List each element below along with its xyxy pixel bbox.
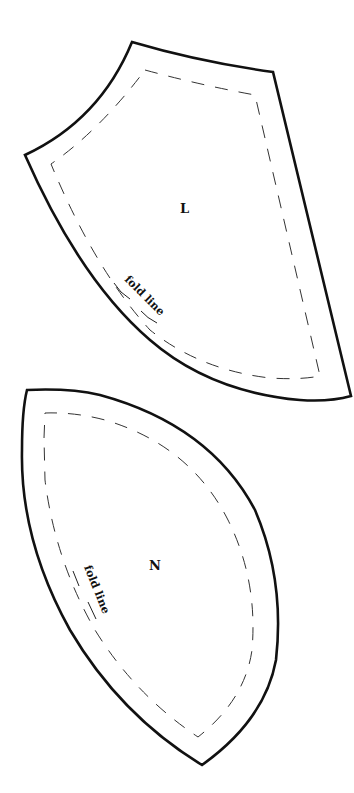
pattern-sheet: L fold line N fold line bbox=[0, 0, 354, 793]
piece-n-cut-line bbox=[22, 390, 278, 765]
piece-l-cut-line bbox=[25, 42, 351, 401]
pattern-piece-n: N fold line bbox=[22, 390, 278, 765]
piece-n-label: N bbox=[149, 558, 161, 573]
piece-l-label: L bbox=[180, 201, 189, 216]
pattern-piece-l: L fold line bbox=[25, 42, 351, 401]
